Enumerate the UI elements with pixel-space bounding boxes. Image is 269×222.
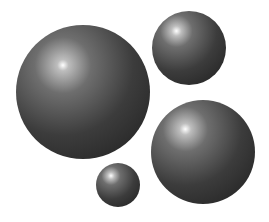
sphere-scene bbox=[0, 0, 269, 222]
bottom-right-sphere bbox=[151, 100, 255, 204]
small-sphere bbox=[96, 163, 140, 207]
top-right-sphere bbox=[152, 11, 226, 85]
large-sphere bbox=[16, 25, 150, 159]
